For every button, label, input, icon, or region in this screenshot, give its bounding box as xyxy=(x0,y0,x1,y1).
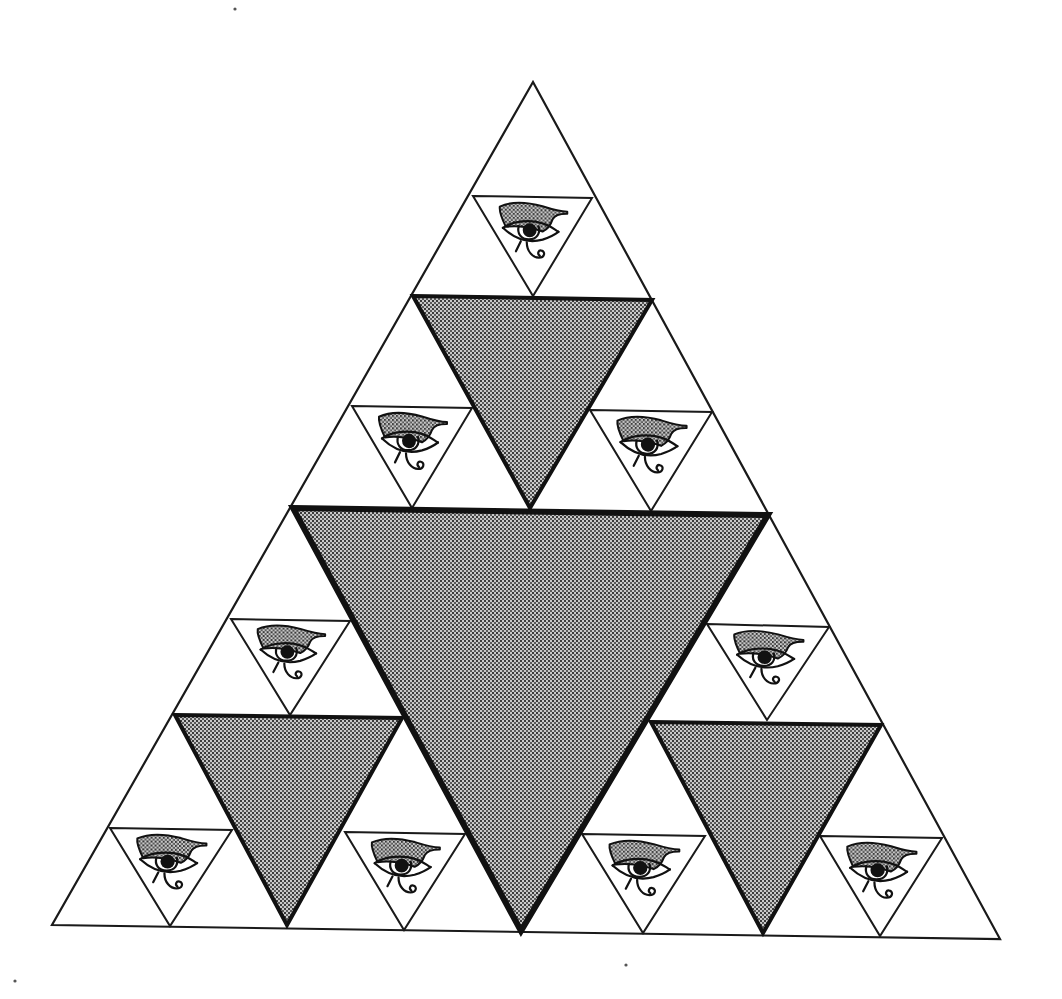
scan-speck xyxy=(624,963,627,966)
scan-speck xyxy=(233,7,236,10)
sierpinski-diagram xyxy=(0,0,1062,999)
scan-speck xyxy=(13,979,16,982)
